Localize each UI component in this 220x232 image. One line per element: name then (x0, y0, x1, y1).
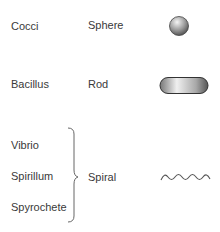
label-cocci: Cocci (11, 20, 39, 33)
rod-icon (159, 76, 209, 95)
label-sphere: Sphere (88, 19, 123, 32)
sphere-icon (168, 15, 190, 37)
curly-brace-icon (62, 126, 80, 224)
label-spirillum: Spirillum (11, 170, 53, 183)
label-vibrio: Vibrio (11, 139, 39, 152)
spiral-wave-icon (160, 171, 212, 183)
label-rod: Rod (88, 78, 108, 91)
label-spyrochete: Spyrochete (11, 201, 67, 214)
label-bacillus: Bacillus (11, 78, 49, 91)
label-spiral: Spiral (88, 171, 116, 184)
